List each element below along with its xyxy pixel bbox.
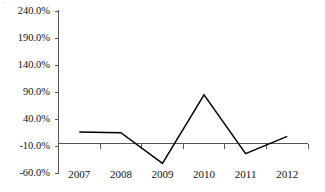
series-group	[79, 95, 287, 163]
y-axis-tick-label: 90.0%	[4, 87, 50, 98]
y-axis-tick-label: 240.0%	[4, 6, 50, 17]
data-series-line	[79, 95, 287, 163]
y-axis-tick-label: 140.0%	[4, 60, 50, 71]
x-axis-tick-label: 2008	[99, 169, 143, 180]
x-axis-tick-label: 2011	[224, 169, 268, 180]
y-axis-tick-label: -60.0%	[4, 168, 50, 179]
y-axis-group	[55, 10, 59, 173]
x-axis-group	[59, 144, 309, 150]
y-axis-tick-label: 40.0%	[4, 114, 50, 125]
y-axis-tick-label: -10.0%	[4, 141, 50, 152]
y-axis-ticks	[55, 12, 59, 174]
x-axis-tick-label: 2012	[265, 169, 309, 180]
y-axis-tick-label: 190.0%	[4, 33, 50, 44]
x-axis-tick-label: 2009	[140, 169, 184, 180]
x-axis-tick-label: 2007	[57, 169, 101, 180]
x-axis-ticks	[59, 144, 309, 150]
line-chart: – – 240.0%190.0%140.0%90.0%40.0%-10.0%-6…	[0, 0, 325, 192]
x-axis-tick-label: 2010	[182, 169, 226, 180]
